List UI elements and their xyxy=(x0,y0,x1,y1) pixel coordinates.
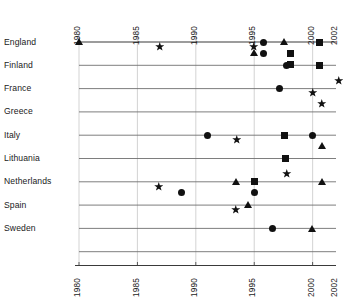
data-point-france-star xyxy=(317,95,327,113)
marker-circle xyxy=(251,189,258,196)
data-point-netherlands-triangle xyxy=(232,178,240,185)
marker-circle xyxy=(204,132,211,139)
data-point-italy-triangle xyxy=(318,142,326,149)
data-point-italy-star xyxy=(232,130,242,148)
data-point-england-star xyxy=(155,37,165,55)
marker-circle xyxy=(260,39,267,46)
marker-square xyxy=(316,62,323,69)
marker-square xyxy=(281,132,288,139)
data-point-france-circle xyxy=(276,85,283,92)
data-point-england-triangle xyxy=(280,38,288,45)
data-point-netherlands-triangle xyxy=(318,178,326,185)
data-point-italy-circle xyxy=(204,132,211,139)
marker-circle xyxy=(260,50,267,57)
data-point-england-square xyxy=(287,50,294,57)
data-point-sweden-circle xyxy=(269,225,276,232)
marker-triangle xyxy=(250,49,258,56)
data-point-italy-square xyxy=(281,132,288,139)
marker-triangle xyxy=(308,225,316,232)
data-point-italy-circle xyxy=(309,132,316,139)
marker-square xyxy=(251,178,258,185)
marker-triangle xyxy=(280,38,288,45)
data-point-finland-square xyxy=(316,62,323,69)
marker-square xyxy=(287,50,294,57)
marker-triangle xyxy=(75,38,83,45)
data-point-sweden-triangle xyxy=(308,225,316,232)
marker-circle xyxy=(276,85,283,92)
data-point-france-star xyxy=(308,84,318,102)
data-point-spain-star xyxy=(231,200,241,218)
data-point-netherlands-circle xyxy=(178,189,185,196)
marker-circle xyxy=(269,225,276,232)
marker-triangle xyxy=(244,201,252,208)
data-point-spain-triangle xyxy=(244,201,252,208)
marker-square xyxy=(316,39,323,46)
data-point-lithuania-square xyxy=(282,155,289,162)
data-point-england-triangle xyxy=(75,38,83,45)
data-point-netherlands-square xyxy=(251,178,258,185)
marker-triangle xyxy=(318,142,326,149)
marker-circle xyxy=(309,132,316,139)
data-point-lithuania-star xyxy=(282,165,292,183)
marker-circle xyxy=(283,62,290,69)
data-point-england-square xyxy=(316,39,323,46)
data-point-netherlands-star xyxy=(154,177,164,195)
marker-circle xyxy=(178,189,185,196)
data-point-finland-circle xyxy=(283,62,290,69)
data-point-netherlands-circle xyxy=(251,189,258,196)
marker-square xyxy=(282,155,289,162)
marker-triangle xyxy=(232,178,240,185)
data-point-england-circle xyxy=(260,39,267,46)
data-point-england-triangle xyxy=(250,49,258,56)
data-point-england-circle xyxy=(260,50,267,57)
data-point-finland-star xyxy=(334,72,344,90)
marker-triangle xyxy=(318,178,326,185)
